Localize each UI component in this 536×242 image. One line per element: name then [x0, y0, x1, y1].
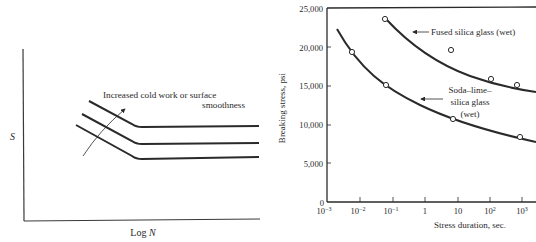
svg-text:10,000: 10,000 [299, 120, 323, 130]
soda-lime-points [349, 49, 522, 139]
svg-text:10: 10 [454, 206, 463, 216]
soda-label-line3: (wet) [461, 109, 480, 119]
svg-text:10−1: 10−1 [384, 206, 399, 217]
soda-label-line2: silica glass [450, 97, 490, 107]
left-y-axis [23, 49, 24, 221]
svg-text:5,000: 5,000 [304, 159, 323, 169]
svg-text:10−2: 10−2 [351, 206, 366, 217]
right-x-ticks [360, 197, 522, 202]
left-x-axis [24, 219, 260, 221]
svg-text:15,000: 15,000 [299, 81, 323, 91]
svg-text:1: 1 [423, 206, 427, 216]
left-x-label: Log N [130, 227, 157, 238]
left-annotation-line2: smoothness [202, 100, 245, 110]
right-chart: 0 5,000 10,000 15,000 20,000 25,000 10−3… [277, 4, 536, 230]
left-y-label: S [10, 131, 15, 142]
left-curve-middle [82, 114, 259, 144]
svg-text:103: 103 [516, 206, 528, 217]
right-x-tick-labels: 10−3 10−2 10−1 1 10 102 103 [317, 206, 528, 217]
figure-canvas: Increased cold work or surface smoothnes… [0, 0, 536, 242]
right-y-label: Breaking stress, psi [277, 72, 287, 143]
svg-text:20,000: 20,000 [299, 43, 323, 53]
svg-text:25,000: 25,000 [299, 4, 323, 14]
svg-text:10−3: 10−3 [317, 206, 332, 217]
right-y-tick-labels: 0 5,000 10,000 15,000 20,000 25,000 [299, 4, 324, 208]
soda-label-line1: Soda–lime– [449, 85, 492, 95]
right-x-label: Stress duration, sec. [434, 220, 506, 230]
right-top-frame [327, 7, 536, 8]
left-chart: Increased cold work or surface smoothnes… [10, 49, 260, 238]
svg-text:102: 102 [484, 206, 496, 217]
fused-silica-label: Fused silica glass (wet) [431, 27, 515, 37]
left-annotation-line1: Increased cold work or surface [103, 90, 216, 100]
